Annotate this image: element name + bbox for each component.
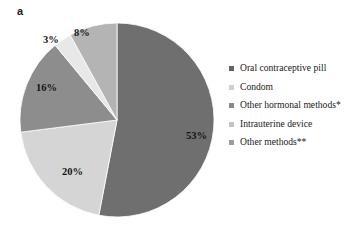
pie-slice-group <box>20 23 214 217</box>
legend-swatch-icon <box>229 66 234 71</box>
legend-item[interactable]: Oral contraceptive pill <box>229 59 363 78</box>
figure-panel-a: a 53% 20% 16% 3% 8% Oral contraceptive p… <box>0 0 363 233</box>
pie-chart-svg <box>20 23 214 217</box>
legend-item-label: Other hormonal methods* <box>240 100 341 110</box>
panel-letter-label: a <box>17 6 23 17</box>
legend-swatch-icon <box>229 85 234 90</box>
legend-item-label: Intrauterine device <box>240 119 312 129</box>
slice-label-condom: 20% <box>62 167 83 178</box>
legend-item-label: Oral contraceptive pill <box>240 63 326 73</box>
legend-swatch-icon <box>229 122 234 127</box>
legend-swatch-icon <box>229 103 234 108</box>
legend-item-label: Condom <box>240 82 273 92</box>
legend-item[interactable]: Other hormonal methods* <box>229 96 363 115</box>
slice-label-intrauterine-device: 3% <box>43 35 59 46</box>
legend-item-label: Other methods** <box>240 137 306 147</box>
legend-swatch-icon <box>229 140 234 145</box>
chart-legend: Oral contraceptive pillCondomOther hormo… <box>229 59 363 152</box>
pie-chart <box>20 23 214 217</box>
legend-item[interactable]: Intrauterine device <box>229 115 363 134</box>
slice-label-other-methods: 8% <box>74 28 90 39</box>
legend-item[interactable]: Condom <box>229 78 363 97</box>
legend-item[interactable]: Other methods** <box>229 133 363 152</box>
slice-label-other-hormonal-methods: 16% <box>36 83 57 94</box>
slice-label-oral-contraceptive-pill: 53% <box>186 131 207 142</box>
